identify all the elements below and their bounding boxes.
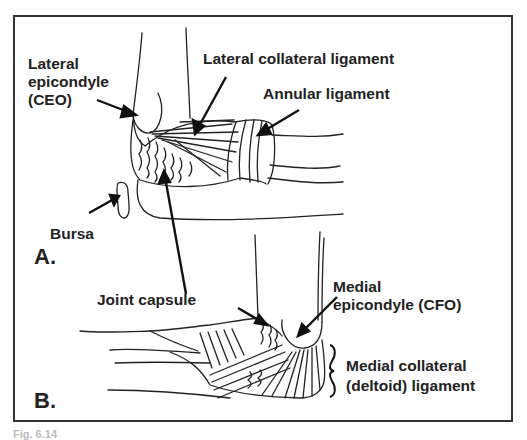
humerus-a-outline: [133, 33, 142, 115]
label-medial-collateral-line1: Medial collateral: [346, 357, 467, 374]
label-medial-collateral-line2: (deltoid) ligament: [346, 377, 475, 394]
label-lateral-epicondyle-line1: Lateral: [28, 55, 79, 72]
label-lateral-collateral-ligament: Lateral collateral ligament: [203, 50, 394, 67]
label-bursa: Bursa: [50, 225, 94, 242]
label-lateral-epicondyle-line3: (CEO): [28, 91, 72, 108]
label-lateral-epicondyle-line2: epicondyle: [28, 73, 109, 90]
figure-caption: Fig. 6.14: [13, 428, 57, 440]
label-medial-epicondyle-line2: epicondyle (CFO): [333, 296, 461, 313]
panel-b-label: B.: [34, 388, 56, 414]
panel-a-label: A.: [34, 244, 56, 270]
label-annular-ligament: Annular ligament: [263, 85, 390, 102]
label-medial-epicondyle-line1: Medial: [333, 278, 381, 295]
label-joint-capsule: Joint capsule: [97, 291, 196, 308]
